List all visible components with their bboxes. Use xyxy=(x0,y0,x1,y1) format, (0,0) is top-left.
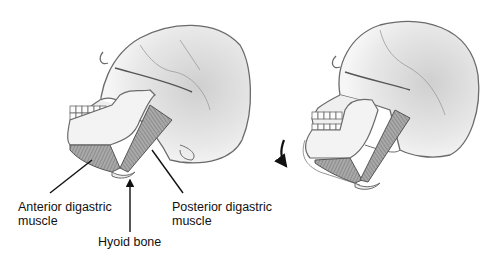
label-line: muscle xyxy=(172,214,272,228)
label-line: Anterior digastric xyxy=(18,200,112,214)
label-line: muscle xyxy=(18,214,112,228)
label-line: Posterior digastric xyxy=(172,200,272,214)
skull-open xyxy=(281,22,479,190)
skull-closed xyxy=(68,25,251,178)
label-anterior-digastric: Anterior digastric muscle xyxy=(18,200,112,228)
label-posterior-digastric: Posterior digastric muscle xyxy=(172,200,272,228)
label-hyoid-bone: Hyoid bone xyxy=(98,235,161,249)
label-line: Hyoid bone xyxy=(98,235,161,249)
jaw-depression-arrow xyxy=(281,140,286,166)
